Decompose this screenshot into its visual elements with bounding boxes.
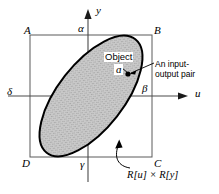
object-callout-symbol: ɑ: [114, 64, 124, 75]
corner-label-a: A: [24, 25, 31, 36]
bound-label-alpha: α: [78, 23, 84, 34]
input-output-pair-callout: An input- output pair: [155, 59, 195, 80]
object-callout: Object ɑ: [104, 52, 133, 75]
product-space-caption: R[u] × R[y]: [127, 170, 178, 181]
figure-canvas: A B C D α β γ δ y u Object ɑ An input- o…: [0, 0, 219, 194]
diagram-svg: [0, 0, 219, 194]
u-axis-arrowhead: [178, 92, 188, 99]
corner-label-c: C: [154, 158, 161, 169]
bound-label-beta: β: [142, 83, 147, 94]
object-callout-title: Object: [104, 52, 133, 62]
pair-callout-line1: An input-: [155, 59, 189, 69]
bound-label-gamma: γ: [80, 159, 84, 170]
y-axis-label: y: [96, 5, 101, 16]
corner-label-d: D: [22, 158, 30, 169]
u-axis-label: u: [195, 88, 201, 99]
y-axis-arrowhead: [84, 9, 91, 19]
product-space-arrowhead: [115, 140, 122, 149]
corner-label-b: B: [154, 25, 161, 36]
pair-callout-line2: output pair: [155, 69, 195, 79]
bound-label-delta: δ: [7, 86, 12, 97]
